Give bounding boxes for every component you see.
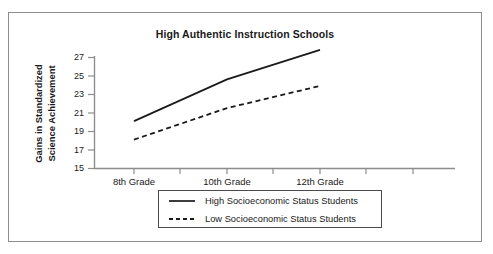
series-line-low-ses bbox=[134, 86, 320, 140]
x-tick-label-10th-grade: 10th Grade bbox=[182, 176, 272, 187]
y-tick-label-15: 15 bbox=[66, 163, 84, 173]
legend-label-low-ses: Low Socioeconomic Status Students bbox=[205, 214, 356, 224]
y-tick-label-21: 21 bbox=[66, 108, 84, 118]
y-tick-label-17: 17 bbox=[66, 145, 84, 155]
legend-label-high-ses: High Socioeconomic Status Students bbox=[205, 196, 358, 206]
legend-item-high-ses: High Socioeconomic Status Students bbox=[159, 191, 383, 210]
x-tick-label-12th-grade: 12th Grade bbox=[275, 176, 365, 187]
y-tick-label-27: 27 bbox=[66, 52, 84, 62]
x-tick-label-8th-grade: 8th Grade bbox=[89, 176, 179, 187]
legend: High Socioeconomic Status Students Low S… bbox=[158, 190, 382, 228]
legend-key-dashed-line bbox=[159, 215, 205, 223]
figure-canvas: High Authentic Instruction Schools Gains… bbox=[0, 0, 493, 254]
y-tick-label-23: 23 bbox=[66, 89, 84, 99]
legend-key-solid-line bbox=[159, 197, 205, 205]
y-tick-label-19: 19 bbox=[66, 126, 84, 136]
legend-item-low-ses: Low Socioeconomic Status Students bbox=[159, 209, 383, 228]
y-tick-label-25: 25 bbox=[66, 71, 84, 81]
series-line-high-ses bbox=[134, 50, 320, 121]
